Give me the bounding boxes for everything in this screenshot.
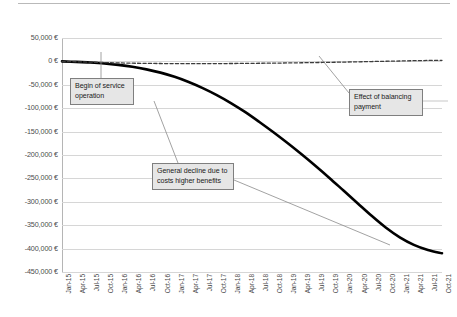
x-axis-tick-label: Oct-15: [107, 274, 114, 293]
y-axis-tick-label: -50,000 €: [2, 81, 58, 89]
x-axis-tick-label: Jan-15: [65, 274, 72, 294]
annotation-effect-of-balancing-payment[interactable]: Effect of balancing payment: [349, 89, 423, 116]
x-axis-tick-label: Jul-19: [318, 274, 325, 291]
y-axis-tick-label: -200,000 €: [2, 151, 58, 159]
annotation-balancing-text: Effect of balancing payment: [354, 93, 411, 111]
y-axis-tick-label: -100,000 €: [2, 104, 58, 112]
x-axis-tick-label: Jul-18: [262, 274, 269, 291]
y-axis-tick-label: 0 €: [2, 57, 58, 65]
top-divider: [18, 3, 450, 4]
annotation-begin-of-service-operation[interactable]: Begin of service operation: [70, 78, 134, 105]
x-axis-tick-label: Jan-17: [178, 274, 185, 294]
y-axis-tick-label: -300,000 €: [2, 198, 58, 206]
y-axis-tick-label: 50,000 €: [2, 34, 58, 42]
x-axis-labels: Jan-15Apr-15Jul-15Oct-15Jan-16Apr-16Jul-…: [62, 274, 442, 317]
x-axis-tick-label: Apr-16: [135, 274, 142, 293]
y-axis-tick-label: -150,000 €: [2, 128, 58, 136]
x-axis-tick-label: Apr-15: [79, 274, 86, 293]
y-axis-tick-label: -450,000 €: [2, 268, 58, 276]
annotation-begin-text: Begin of service operation: [75, 82, 125, 100]
x-axis-tick-label: Jul-17: [206, 274, 213, 291]
x-axis-tick-label: Apr-20: [361, 274, 368, 293]
x-axis-tick-label: Apr-18: [248, 274, 255, 293]
series-lines: [62, 38, 442, 272]
y-axis-labels: 50,000 €0 €-50,000 €-100,000 €-150,000 €…: [0, 0, 58, 317]
gridline: [62, 272, 442, 273]
x-axis-tick-label: Jul-20: [375, 274, 382, 291]
x-axis-tick-label: Apr-19: [304, 274, 311, 293]
x-axis-tick-label: Oct-17: [220, 274, 227, 293]
x-axis-tick-label: Jan-16: [121, 274, 128, 294]
x-axis-tick-label: Jul-16: [149, 274, 156, 291]
x-axis-tick-label: Oct-16: [164, 274, 171, 293]
x-axis-tick-label: Oct-18: [276, 274, 283, 293]
plot-area: [62, 38, 442, 272]
y-axis-tick-label: -250,000 €: [2, 174, 58, 182]
x-axis-tick-label: Apr-21: [417, 274, 424, 293]
x-axis-tick-label: Oct-19: [332, 274, 339, 293]
chart-page: 50,000 €0 €-50,000 €-100,000 €-150,000 €…: [0, 0, 457, 317]
x-axis-tick-label: Jan-18: [234, 274, 241, 294]
x-axis-tick-label: Jan-19: [290, 274, 297, 294]
y-axis-tick-label: -350,000 €: [2, 221, 58, 229]
x-axis-tick-label: Jan-21: [403, 274, 410, 294]
x-axis-tick-label: Oct-20: [389, 274, 396, 293]
x-axis-tick-label: Jan-20: [346, 274, 353, 294]
x-axis-tick-label: Oct-21: [445, 274, 452, 293]
y-axis-tick-label: -400,000 €: [2, 245, 58, 253]
series-line-1: [62, 60, 442, 63]
x-axis-tick-label: Apr-17: [192, 274, 199, 293]
annotation-general-decline[interactable]: General decline due to costs higher bene…: [152, 163, 234, 190]
x-axis-tick-label: Jul-21: [431, 274, 438, 291]
annotation-decline-text: General decline due to costs higher bene…: [157, 167, 227, 185]
x-axis-tick-label: Jul-15: [93, 274, 100, 291]
